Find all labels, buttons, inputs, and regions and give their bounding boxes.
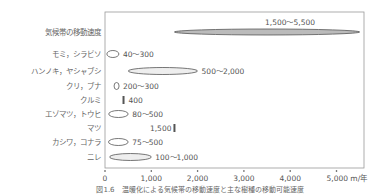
row-label: カシワ，コナラ [52, 138, 101, 147]
tick-label: 4,000 [279, 174, 301, 183]
chart-row: マツ1,500 [87, 124, 175, 133]
range-ellipse [109, 111, 128, 118]
range-value-label: 500～2,000 [202, 67, 245, 76]
tick-label: 3,000 [233, 174, 255, 183]
range-ellipse [107, 51, 119, 58]
tick-label: 5,000 m/年 [327, 173, 369, 183]
tick-mark [197, 170, 199, 172]
row-label: クルミ [80, 96, 101, 105]
chart-row: モミ，シラビソ40～300 [52, 50, 154, 59]
range-value-label: 40～300 [123, 50, 154, 59]
tick-mark [336, 170, 338, 172]
row-label: エゾマツ，トウヒ [45, 110, 101, 119]
chart-row: ニレ100～1,000 [87, 153, 198, 162]
chart-row: エゾマツ，トウヒ80～500 [45, 110, 163, 119]
range-chart: 気候帯の移動速度1,500～5,500モミ，シラビソ40～300ハンノキ，ヤシャ… [0, 0, 384, 195]
range-value-label: 80～500 [132, 110, 163, 119]
tick-mark [289, 170, 291, 172]
range-ellipse [174, 29, 359, 35]
range-value-label: 75～500 [132, 138, 163, 147]
figure-caption: 図1.6 温暖化による気候帯の移動速度と主な樹種の移動可能速度 [96, 185, 303, 194]
range-value-label: 1,500～5,500 [265, 18, 315, 27]
x-axis: 01,0002,0003,0004,0005,000 m/年 [103, 170, 369, 183]
range-ellipse [108, 139, 128, 146]
value-bar [173, 124, 175, 132]
chart-row: ハンノキ，ヤシャブシ500～2,000 [31, 66, 245, 76]
range-value-label: 400 [129, 96, 144, 105]
row-label: マツ [87, 124, 101, 133]
range-ellipse [114, 83, 119, 90]
range-value-label: 100～1,000 [155, 153, 198, 162]
tick-mark [104, 170, 106, 172]
range-ellipse [128, 68, 197, 75]
tick-mark [243, 170, 245, 172]
chart-row: クルミ400 [80, 96, 143, 105]
row-label: 気候帯の移動速度 [45, 27, 102, 37]
row-label: クリ，ブナ [66, 81, 101, 91]
tick-label: 2,000 [187, 174, 209, 183]
tick-label: 0 [103, 174, 108, 183]
tick-mark [151, 170, 153, 172]
chart-row: クリ，ブナ200～300 [66, 81, 159, 91]
row-label: ハンノキ，ヤシャブシ [31, 66, 101, 76]
row-label: モミ，シラビソ [52, 50, 101, 59]
range-ellipse [110, 154, 152, 161]
chart-row: 気候帯の移動速度1,500～5,500 [45, 18, 360, 37]
range-value-label: 1,500 [150, 124, 172, 133]
tick-label: 1,000 [141, 174, 163, 183]
chart-row: カシワ，コナラ75～500 [52, 138, 163, 147]
value-bar [123, 96, 125, 104]
range-value-label: 200～300 [123, 82, 159, 91]
row-label: ニレ [87, 153, 101, 162]
chart-rows: 気候帯の移動速度1,500～5,500モミ，シラビソ40～300ハンノキ，ヤシャ… [31, 18, 360, 162]
